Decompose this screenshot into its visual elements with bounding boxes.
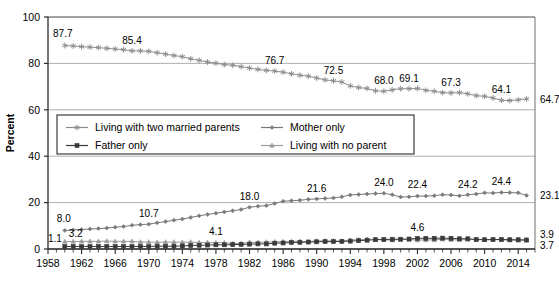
data-point-marker-1988 <box>298 240 302 244</box>
y-tick-label-0: 0 <box>34 243 40 255</box>
data-point-marker-1998 <box>382 237 386 241</box>
data-point-marker-1969 <box>138 244 142 248</box>
x-tick-label-2002: 2002 <box>406 257 430 269</box>
data-point-marker-1964 <box>96 244 100 248</box>
data-label-2015: 3.7 <box>540 240 554 251</box>
data-point-marker-1979 <box>222 243 226 247</box>
data-label-1960: 1.1 <box>48 233 62 244</box>
data-label-1998: 24.0 <box>374 177 394 188</box>
x-tick-label-1962: 1962 <box>70 257 94 269</box>
x-tick-label-2010: 2010 <box>473 257 497 269</box>
data-point-marker-2005 <box>441 236 445 240</box>
data-label-2012: 24.4 <box>492 176 512 187</box>
data-point-marker-2015 <box>525 238 529 242</box>
chart-legend: Living with two married parentsMother on… <box>57 115 414 154</box>
x-tick-label-1982: 1982 <box>238 257 262 269</box>
legend-label: Father only <box>95 139 148 151</box>
data-label-2002: 4.6 <box>410 222 424 233</box>
data-point-marker-1987 <box>290 241 294 245</box>
data-label-2001: 69.1 <box>399 73 419 84</box>
legend-label: Living with two married parents <box>95 121 240 133</box>
data-point-marker-1965 <box>105 244 109 248</box>
data-point-marker-1983 <box>256 242 260 246</box>
data-label-1990: 21.6 <box>307 183 327 194</box>
data-point-marker-1967 <box>122 244 126 248</box>
data-point-marker-1961 <box>71 244 75 248</box>
x-tick-label-1986: 1986 <box>271 257 295 269</box>
data-label-2015: 3.9 <box>540 229 554 240</box>
data-point-marker-1989 <box>306 240 310 244</box>
data-point-marker-2004 <box>432 236 436 240</box>
x-tick-label-1998: 1998 <box>372 257 396 269</box>
data-label-1978: 4.1 <box>209 226 223 237</box>
legend-label: Living with no parent <box>290 139 386 151</box>
y-tick-label-60: 60 <box>28 104 40 116</box>
y-axis-title: Percent <box>4 113 16 152</box>
x-tick-label-1974: 1974 <box>171 257 195 269</box>
data-point-marker-2006 <box>449 236 453 240</box>
data-label-1968: 85.4 <box>122 35 142 46</box>
x-tick-label-1994: 1994 <box>339 257 363 269</box>
y-tick-label-20: 20 <box>28 196 40 208</box>
data-point-marker-1997 <box>373 238 377 242</box>
data-point-marker-1985 <box>273 241 277 245</box>
data-point-marker-1962 <box>80 244 84 248</box>
x-tick-label-2014: 2014 <box>507 257 531 269</box>
data-point-marker-2013 <box>508 238 512 242</box>
data-point-marker-1990 <box>315 240 319 244</box>
data-point-marker-1976 <box>197 243 201 247</box>
data-label-2012: 64.1 <box>492 84 512 95</box>
data-point-marker-1986 <box>281 241 285 245</box>
data-point-marker-2003 <box>424 236 428 240</box>
legend-label: Mother only <box>290 121 346 133</box>
data-point-marker-2014 <box>516 238 520 242</box>
data-point-marker-2008 <box>466 237 470 241</box>
data-point-marker-1981 <box>239 242 243 246</box>
data-label-1985: 76.7 <box>265 55 285 66</box>
data-point-marker-1970 <box>147 244 151 248</box>
data-label-1982: 18.0 <box>240 191 260 202</box>
data-point-marker-1995 <box>357 239 361 243</box>
data-label-1960: 87.7 <box>53 28 73 39</box>
data-point-marker-1972 <box>164 244 168 248</box>
data-point-marker-2000 <box>399 237 403 241</box>
y-tick-label-80: 80 <box>28 57 40 69</box>
data-label-1960: 8.0 <box>57 213 71 224</box>
data-point-marker-1968 <box>130 244 134 248</box>
data-point-marker-1971 <box>155 244 159 248</box>
data-point-marker-1991 <box>323 240 327 244</box>
x-tick-label-1990: 1990 <box>305 257 329 269</box>
data-point-marker-1973 <box>172 244 176 248</box>
data-point-marker-1975 <box>189 244 193 248</box>
data-label-1960: 3.2 <box>69 228 83 239</box>
data-point-marker-1978 <box>214 243 218 247</box>
data-point-marker-1960 <box>63 244 67 248</box>
x-tick-label-1966: 1966 <box>103 257 127 269</box>
data-point-marker-1982 <box>248 242 252 246</box>
data-label-1970: 10.7 <box>139 208 159 219</box>
data-point-marker-1980 <box>231 243 235 247</box>
data-label-2006: 67.3 <box>441 77 461 88</box>
data-point-marker-1994 <box>348 239 352 243</box>
square-marker <box>75 144 79 148</box>
data-point-marker-2011 <box>491 237 495 241</box>
data-point-marker-2012 <box>499 237 503 241</box>
data-point-marker-2009 <box>474 237 478 241</box>
data-point-marker-2001 <box>407 237 411 241</box>
x-tick-label-1978: 1978 <box>204 257 228 269</box>
data-point-marker-1966 <box>113 244 117 248</box>
data-point-marker-2007 <box>457 237 461 241</box>
data-point-marker-1992 <box>331 240 335 244</box>
line-chart: 020406080100Percent195819621966197019741… <box>0 0 559 285</box>
data-point-marker-1963 <box>88 244 92 248</box>
x-tick-label-2006: 2006 <box>439 257 463 269</box>
data-point-marker-1974 <box>180 244 184 248</box>
data-point-marker-1996 <box>365 238 369 242</box>
data-label-2002: 22.4 <box>408 179 428 190</box>
data-point-marker-2010 <box>483 238 487 242</box>
data-label-2015: 64.7 <box>540 94 559 105</box>
data-label-1992: 72.5 <box>324 65 344 76</box>
data-point-marker-1999 <box>390 237 394 241</box>
data-point-marker-1984 <box>264 242 268 246</box>
x-tick-label-1958: 1958 <box>36 257 60 269</box>
